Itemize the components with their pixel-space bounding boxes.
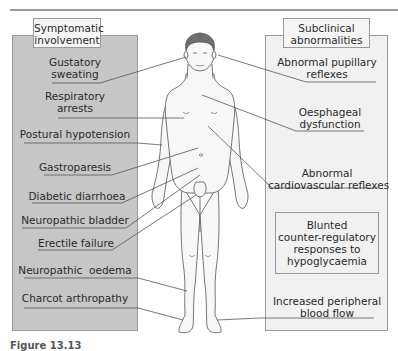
figure-caption: Figure 13.13 (10, 340, 81, 351)
label-postural-hypotension: Postural hypotension (16, 128, 134, 140)
label-line: counter-regulatory (276, 231, 378, 243)
label-line: Charcot arthropathy (16, 292, 134, 304)
blunted-counter-regulatory-box: Blunted counter-regulatory responses to … (275, 212, 379, 274)
label-line: hypoglycaemia (276, 255, 378, 267)
label-charcot-arthropathy: Charcot arthropathy (16, 292, 134, 304)
label-line: cardiovascular reflexes (268, 179, 386, 191)
label-respiratory-arrests: Respiratory arrests (40, 90, 110, 114)
label-line: Abnormal (268, 167, 386, 179)
label-erectile-failure: Erectile failure (34, 237, 118, 249)
label-oesphageal-dysfunction: Oesphageal dysfunction (280, 106, 380, 130)
label-line: sweating (40, 68, 110, 80)
label-line: reflexes (268, 68, 386, 80)
label-line: Blunted (276, 219, 378, 231)
label-line: Postural hypotension (16, 128, 134, 140)
label-line: Neuropathic oedema (16, 264, 134, 276)
label-line: Respiratory (40, 90, 110, 102)
label-line: Erectile failure (34, 237, 118, 249)
label-line: dysfunction (280, 118, 380, 130)
label-line: blood flow (268, 307, 386, 319)
subclinical-abnormalities-title: Subclinical abnormalities (283, 18, 370, 48)
label-line: Abnormal pupillary (268, 56, 386, 68)
title-line: involvement (34, 34, 100, 46)
label-gustatory-sweating: Gustatory sweating (40, 56, 110, 80)
symptomatic-involvement-title: Symptomatic involvement (33, 18, 101, 48)
label-line: Increased peripheral (268, 295, 386, 307)
leader-charcot-arthropathy (24, 308, 183, 320)
title-line: Symptomatic (34, 22, 100, 34)
leader-neuropathic-oedema (24, 278, 187, 291)
title-line: Subclinical (284, 22, 369, 34)
label-abnormal-cardiovascular-reflexes: Abnormal cardiovascular reflexes (268, 167, 386, 191)
label-diabetic-diarrhoea: Diabetic diarrhoea (24, 190, 130, 202)
leader-postural-hypotension (24, 143, 162, 145)
title-line: abnormalities (284, 34, 369, 46)
label-line: Gustatory (40, 56, 110, 68)
label-line: arrests (40, 102, 110, 114)
label-line: Neuropathic bladder (18, 214, 132, 226)
label-increased-peripheral-blood-flow: Increased peripheral blood flow (268, 295, 386, 319)
label-abnormal-pupillary-reflexes: Abnormal pupillary reflexes (268, 56, 386, 80)
label-neuropathic-oedema: Neuropathic oedema (16, 264, 134, 276)
label-gastroparesis: Gastroparesis (30, 161, 120, 173)
label-line: Gastroparesis (30, 161, 120, 173)
label-neuropathic-bladder: Neuropathic bladder (18, 214, 132, 226)
label-line: Diabetic diarrhoea (24, 190, 130, 202)
label-line: responses to (276, 243, 378, 255)
label-line: Oesphageal (280, 106, 380, 118)
